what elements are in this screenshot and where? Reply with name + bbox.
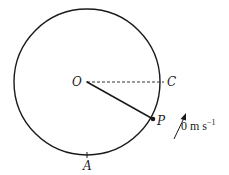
center-point-o <box>86 81 88 83</box>
velocity-label: 0 m s−1 <box>181 118 216 133</box>
label-c: C <box>167 75 176 89</box>
circular-motion-diagram: O C P A 0 m s−1 <box>0 0 229 175</box>
label-o: O <box>72 75 82 89</box>
label-p: P <box>156 114 166 128</box>
line-op <box>87 82 153 119</box>
label-a: A <box>82 159 92 173</box>
particle-p <box>151 117 156 122</box>
